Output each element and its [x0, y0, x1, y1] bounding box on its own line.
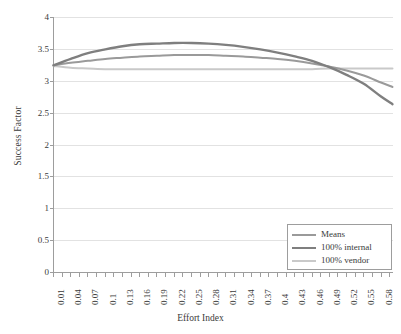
y-axis-tick-label: 0.5 [38, 236, 49, 245]
y-axis-tick-labels: 00.511.522.533.54 [24, 0, 49, 334]
legend-item-label: 100% vendor [321, 256, 369, 265]
y-axis-tick-label: 4 [45, 13, 50, 22]
legend-item: 100% internal [292, 241, 387, 254]
y-axis-tick-label: 1.5 [38, 172, 49, 181]
x-axis-title: Effort Index [0, 313, 401, 323]
chart-legend: Means100% internal100% vendor [287, 224, 392, 270]
y-axis-tick-label: 0 [45, 268, 50, 277]
y-axis-tick-label: 3.5 [38, 45, 49, 54]
legend-item: 100% vendor [292, 254, 387, 267]
legend-item: Means [292, 228, 387, 241]
legend-item-label: 100% internal [321, 243, 372, 252]
series-line [54, 55, 393, 87]
legend-swatch-line-icon [292, 260, 316, 262]
y-axis-tick-label: 1 [45, 204, 50, 213]
x-axis-title-label: Effort Index [177, 313, 224, 323]
y-axis-tick-label: 2.5 [38, 109, 49, 118]
series-line [54, 43, 393, 104]
plot-area [0, 0, 401, 334]
success-factor-line-chart: Success Factor 00.511.522.533.54 0.010.0… [0, 0, 401, 334]
y-axis-tick-label: 3 [45, 77, 50, 86]
legend-swatch-line-icon [292, 247, 316, 249]
legend-swatch-line-icon [292, 234, 316, 236]
legend-item-label: Means [321, 230, 345, 239]
y-axis-tick-label: 2 [45, 141, 50, 150]
